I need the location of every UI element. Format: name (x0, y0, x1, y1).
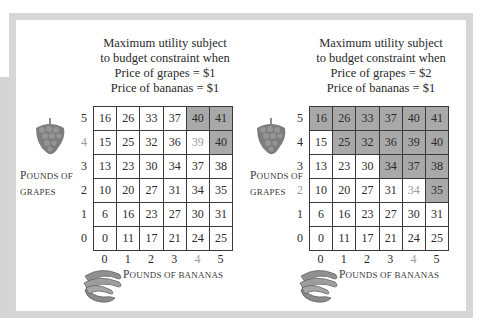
grid-cell: 15 (310, 131, 333, 155)
grid-cell: 32 (140, 131, 163, 155)
grid-cell: 40 (402, 107, 425, 131)
grid-cell: 16 (94, 107, 117, 131)
y-axis-label-cap: P (20, 169, 27, 181)
column-label: 1 (116, 252, 139, 267)
grid-cell: 34 (163, 155, 186, 179)
grid-cell: 15 (94, 131, 117, 155)
y-axis-label-line1: Pounds of (20, 167, 73, 184)
title-line: Price of grapes = $1 (95, 66, 235, 81)
grid-cell: 6 (94, 203, 117, 227)
bananas-icon (81, 266, 127, 310)
panel-title: Maximum utility subjectto budget constra… (95, 36, 235, 96)
grid-cell: 16 (117, 203, 140, 227)
grid-cell: 30 (356, 155, 379, 179)
column-label: 2 (139, 252, 162, 267)
grid-row: 162633374041 (310, 107, 449, 131)
y-axis-label-line2: grapes (20, 184, 73, 200)
row-label: 3 (78, 159, 90, 174)
x-axis-label-rest: ounds of bananas (346, 270, 440, 280)
grid-cell: 26 (333, 107, 356, 131)
grid-cell: 34 (402, 179, 425, 203)
grid-cell: 13 (94, 155, 117, 179)
grid-cell: 16 (333, 203, 356, 227)
grid-cell: 35 (425, 179, 448, 203)
grid-cell: 21 (163, 227, 186, 251)
row-label: 1 (294, 207, 306, 222)
y-axis-label-cap: P (250, 169, 257, 181)
grid-cell: 41 (425, 107, 448, 131)
grid-cell: 33 (356, 107, 379, 131)
column-label: 0 (309, 252, 332, 267)
grid-cell: 30 (140, 155, 163, 179)
row-label: 0 (294, 231, 306, 246)
grid-cell: 26 (117, 107, 140, 131)
grid-row: 61623273031 (310, 203, 449, 227)
column-label: 3 (163, 252, 186, 267)
title-line: Price of bananas = $1 (95, 81, 235, 96)
grid-cell: 30 (186, 203, 209, 227)
grid-row: 102027313435 (310, 179, 449, 203)
grid-row: 01117212425 (94, 227, 233, 251)
grid-cell: 23 (356, 203, 379, 227)
grid-cell: 30 (402, 203, 425, 227)
grid-cell: 20 (117, 179, 140, 203)
grid-cell: 31 (379, 179, 402, 203)
grid-cell: 10 (94, 179, 117, 203)
grid-cell: 32 (356, 131, 379, 155)
grid-cell: 37 (186, 155, 209, 179)
column-label: 4 (402, 252, 425, 267)
row-label: 2 (78, 183, 90, 198)
grid-cell: 31 (163, 179, 186, 203)
bananas-icon (297, 266, 343, 310)
title-line: Maximum utility subject (311, 36, 451, 51)
grid-cell: 17 (356, 227, 379, 251)
grid-cell: 0 (310, 227, 333, 251)
grid-cell: 25 (425, 227, 448, 251)
column-label: 3 (379, 252, 402, 267)
y-axis-label: Pounds ofgrapes (20, 167, 73, 200)
grid-cell: 23 (333, 155, 356, 179)
row-label: 2 (294, 183, 306, 198)
grid-cell: 11 (117, 227, 140, 251)
grid-cell: 27 (356, 179, 379, 203)
y-axis-label-rest: ounds of (27, 171, 73, 181)
grid-row: 61623273031 (94, 203, 233, 227)
title-line: to budget constraint when (311, 51, 451, 66)
grid-cell: 11 (333, 227, 356, 251)
row-label: 1 (78, 207, 90, 222)
grid-cell: 25 (117, 131, 140, 155)
row-label: 5 (294, 111, 306, 126)
grid-cell: 24 (402, 227, 425, 251)
column-label: 5 (209, 252, 232, 267)
grid-cell: 6 (310, 203, 333, 227)
row-label: 5 (78, 111, 90, 126)
grid-row: 162633374041 (94, 107, 233, 131)
grid-row: 132330343738 (94, 155, 233, 179)
grid-cell: 40 (209, 131, 232, 155)
row-label: 0 (78, 231, 90, 246)
x-axis-label: Pounds of bananas (123, 268, 223, 280)
utility-grid: 1626333740411525323639401323303437381020… (93, 106, 233, 251)
grid-cell: 17 (140, 227, 163, 251)
grid-cell: 25 (209, 227, 232, 251)
title-line: to budget constraint when (95, 51, 235, 66)
row-label: 4 (78, 135, 90, 150)
grid-cell: 24 (186, 227, 209, 251)
grid-cell: 40 (186, 107, 209, 131)
grid-cell: 38 (209, 155, 232, 179)
grid-cell: 27 (140, 179, 163, 203)
panel-title: Maximum utility subjectto budget constra… (311, 36, 451, 96)
grid-cell: 37 (379, 107, 402, 131)
row-label: 3 (294, 159, 306, 174)
grid-cell: 20 (333, 179, 356, 203)
column-label: 2 (355, 252, 378, 267)
grid-cell: 41 (209, 107, 232, 131)
column-label: 4 (186, 252, 209, 267)
grid-cell: 31 (209, 203, 232, 227)
grid-cell: 34 (379, 155, 402, 179)
grapes-icon (253, 116, 289, 162)
grid-cell: 34 (186, 179, 209, 203)
column-label: 5 (425, 252, 448, 267)
grid-cell: 27 (379, 203, 402, 227)
title-line: Price of grapes = $2 (311, 66, 451, 81)
